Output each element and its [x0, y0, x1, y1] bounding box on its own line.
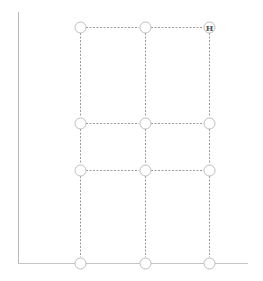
node-h-label: H [206, 23, 214, 33]
horizontal-edges [86, 28, 203, 171]
node [204, 165, 215, 176]
node [140, 22, 151, 33]
grid-diagram: H [0, 0, 263, 281]
node [140, 118, 151, 129]
node [75, 165, 86, 176]
node [140, 258, 151, 269]
vertical-edges [81, 33, 210, 257]
node [204, 118, 215, 129]
node [75, 118, 86, 129]
node [204, 258, 215, 269]
node [75, 22, 86, 33]
node [75, 258, 86, 269]
node [140, 165, 151, 176]
